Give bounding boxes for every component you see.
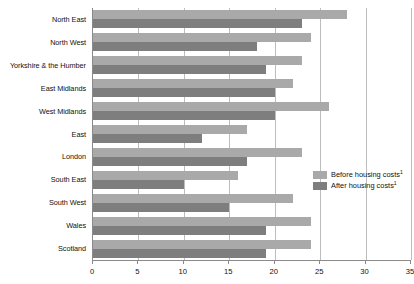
bar-group [93,10,411,29]
bar-after-housing-costs [93,226,266,235]
bar-group [93,240,411,259]
legend-swatch-after-icon [313,182,327,190]
bar-group [93,125,411,144]
bar-after-housing-costs [93,134,202,143]
bar-before-housing-costs [93,217,311,226]
bar-before-housing-costs [93,125,247,134]
category-label: South East [0,175,86,184]
bar-after-housing-costs [93,65,266,74]
bar-after-housing-costs [93,88,275,97]
bar-after-housing-costs [93,203,229,212]
bar-before-housing-costs [93,33,311,42]
x-axis-tick-label: 25 [315,267,323,276]
legend-item: Before housing costs1 [313,170,408,180]
legend-item: After housing costs1 [313,181,408,191]
bar-before-housing-costs [93,10,347,19]
category-label: East Midlands [0,84,86,93]
bar-before-housing-costs [93,148,302,157]
bar-group [93,79,411,98]
category-label: Scotland [0,244,86,253]
bar-after-housing-costs [93,157,247,166]
x-axis-tick [410,260,411,264]
category-label: West Midlands [0,107,86,116]
x-axis-tick-label: 0 [90,267,94,276]
bar-before-housing-costs [93,102,329,111]
bar-before-housing-costs [93,79,293,88]
x-axis-tick-label: 15 [224,267,232,276]
plot-area [92,8,411,260]
bar-before-housing-costs [93,240,311,249]
x-axis-tick-label: 5 [135,267,139,276]
bar-after-housing-costs [93,180,184,189]
bar-group [93,217,411,236]
bar-group [93,56,411,75]
x-axis-tick-label: 30 [360,267,368,276]
category-label: North West [0,38,86,47]
bar-group [93,102,411,121]
category-label: East [0,130,86,139]
x-axis-tick [137,260,138,264]
bar-before-housing-costs [93,171,238,180]
gridline [411,8,412,260]
x-axis-tick [365,260,366,264]
category-label: Yorkshire & the Humber [0,61,86,70]
legend-swatch-before-icon [313,171,327,179]
x-axis-line [92,260,410,261]
category-axis-labels: North EastNorth WestYorkshire & the Humb… [0,8,86,260]
legend-footnote-marker: 1 [394,180,397,186]
category-label: London [0,152,86,161]
x-axis-tick [92,260,93,264]
legend-label: Before housing costs1 [331,170,403,180]
x-axis-tick-label: 10 [179,267,187,276]
bar-group [93,194,411,213]
x-axis-tick [274,260,275,264]
legend-footnote-marker: 1 [400,169,403,175]
category-label: North East [0,15,86,24]
bar-before-housing-costs [93,56,302,65]
bar-group [93,33,411,52]
bar-group [93,148,411,167]
bar-after-housing-costs [93,42,257,51]
category-label: Wales [0,221,86,230]
x-axis-tick [319,260,320,264]
category-label: South West [0,198,86,207]
x-axis-tick [183,260,184,264]
x-axis-tick [228,260,229,264]
bar-after-housing-costs [93,111,275,120]
chart-legend: Before housing costs1After housing costs… [313,170,408,192]
bar-after-housing-costs [93,249,266,258]
x-axis-tick-label: 35 [406,267,414,276]
x-axis-tick-label: 20 [269,267,277,276]
legend-label: After housing costs1 [331,181,397,191]
bar-before-housing-costs [93,194,293,203]
bar-after-housing-costs [93,19,302,28]
